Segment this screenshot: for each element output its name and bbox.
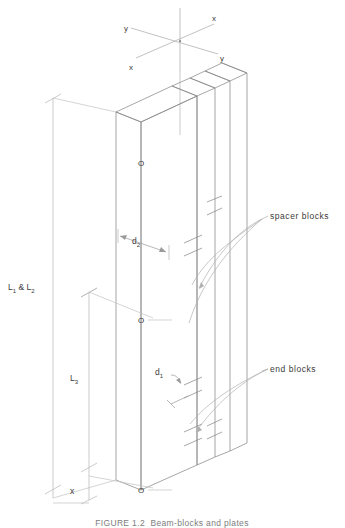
dim-d2-arrow-right bbox=[159, 247, 166, 252]
dimension-d2: d2 bbox=[118, 229, 169, 260]
plate-3-top-face bbox=[190, 71, 230, 88]
spacer-divider-b1 bbox=[207, 196, 222, 202]
axis-x-line bbox=[136, 24, 214, 58]
spacer-blocks-leader-shoulder bbox=[262, 216, 268, 219]
end-block-divider-b1 bbox=[207, 419, 222, 426]
dim-L1L2-extension-bottom bbox=[53, 480, 116, 498]
dim-d1-base-line bbox=[171, 396, 188, 404]
dimension-label-L3: L3 bbox=[70, 373, 79, 385]
center-marker-o-bottom: O bbox=[138, 486, 144, 495]
axis-cross-group: x y x y bbox=[124, 8, 224, 72]
center-marker-o-middle-leader bbox=[89, 292, 153, 318]
spacer-blocks-leader-1 bbox=[199, 219, 262, 288]
dimension-label-d2: d2 bbox=[132, 236, 141, 248]
dimension-L1L2: L1 & L2 bbox=[8, 94, 116, 498]
end-block-divider-a2 bbox=[184, 438, 202, 446]
plate-4 bbox=[205, 63, 247, 451]
axis-label-y-lower: y bbox=[220, 54, 224, 63]
spacer-blocks-arrow-1 bbox=[199, 282, 204, 289]
dim-d1-tick bbox=[167, 400, 175, 408]
axis-label-x-lower: x bbox=[129, 63, 133, 72]
isometric-drawing-svg: x y x y bbox=[0, 0, 345, 528]
axis-origin-dot bbox=[179, 40, 181, 42]
axis-label-y-upper: y bbox=[124, 24, 128, 33]
annotation-spacer-blocks-group: spacer blocks bbox=[189, 211, 329, 323]
axis-label-x-upper: x bbox=[212, 14, 216, 23]
center-marker-o-middle: O bbox=[138, 316, 144, 325]
plate-2-bottom-edge bbox=[197, 457, 215, 465]
dimension-x: x bbox=[53, 476, 97, 504]
spacer-divider-c1 bbox=[184, 377, 202, 385]
annotation-label-spacer-blocks: spacer blocks bbox=[270, 211, 329, 221]
spacer-divider-a1 bbox=[184, 235, 202, 243]
dim-L1L2-extension-top bbox=[53, 98, 116, 112]
plate-stack-group bbox=[116, 63, 247, 490]
plate-4-top-face bbox=[205, 63, 247, 81]
figure-caption: FIGURE 1.2 Beam-blocks and plates bbox=[95, 518, 249, 528]
dim-d2-line bbox=[120, 236, 166, 252]
dim-d1-arrow bbox=[176, 378, 181, 384]
plate-4-bottom-edge bbox=[230, 443, 247, 451]
spacer-blocks-leader-2 bbox=[192, 219, 262, 285]
end-block-divider-b2 bbox=[207, 432, 222, 439]
dimension-L3: L3 bbox=[70, 288, 97, 476]
plate-3-bottom-edge bbox=[215, 451, 230, 457]
spacer-blocks-leader-3 bbox=[189, 219, 262, 323]
plate-front bbox=[116, 86, 197, 490]
annotation-label-end-blocks: end blocks bbox=[270, 364, 316, 374]
spacer-divider-a2 bbox=[184, 248, 202, 256]
annotation-end-blocks-group: end blocks bbox=[190, 364, 316, 433]
end-blocks-leader-1 bbox=[196, 369, 268, 432]
plate-front-left-face bbox=[116, 112, 141, 490]
dimension-label-d1: d1 bbox=[155, 367, 164, 379]
dimension-label-x: x bbox=[70, 486, 75, 496]
stack-back-top-edge bbox=[222, 63, 247, 73]
figure-canvas: x y x y bbox=[0, 0, 345, 528]
dim-d2-arrow-left bbox=[120, 235, 127, 240]
center-marker-o-top: O bbox=[138, 159, 144, 168]
figure-caption-group: FIGURE 1.2 Beam-blocks and plates bbox=[95, 518, 249, 528]
spacer-divider-b2 bbox=[207, 208, 222, 215]
center-marker-group: O O O bbox=[81, 159, 172, 495]
dimension-label-L1L2: L1 & L2 bbox=[8, 282, 35, 294]
dimension-d1: d1 bbox=[155, 367, 188, 408]
plate-2-top-face bbox=[172, 78, 215, 96]
plate-front-right-face bbox=[141, 96, 197, 490]
